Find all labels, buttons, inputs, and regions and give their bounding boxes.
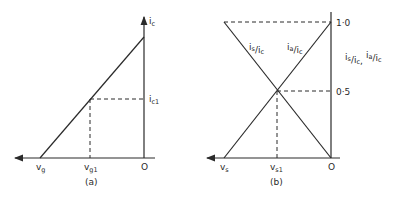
origin-label: O (141, 162, 148, 172)
caption-b: (b) (270, 177, 283, 187)
tick-0-5: 0·5 (336, 87, 350, 97)
diagram-a: ic ic1 vg vg1 O (a) (15, 16, 159, 187)
ic1-label: ic1 (149, 94, 159, 106)
origin-label: O (328, 162, 335, 172)
tick-1-0: 1·0 (336, 18, 351, 28)
ia-ic-label: ia/ic (287, 42, 303, 56)
y-axis-label: ic (149, 16, 156, 28)
y-axis-label: is/ic,ia/ic (345, 50, 382, 66)
transfer-line (40, 37, 144, 158)
vg-label: vg (36, 162, 45, 174)
is-ic-label: is/ic (249, 42, 264, 56)
vs1-label: vs1 (270, 162, 283, 174)
vs-label: vs (220, 162, 229, 174)
diagram-b: 1·0 0·5 O vs vs1 is/ic ia/ic is/ic,ia/ic… (207, 12, 382, 187)
caption-a: (a) (85, 177, 98, 187)
vg1-label: vg1 (84, 162, 98, 174)
diagram-canvas: ic ic1 vg vg1 O (a) 1·0 0·5 O vs vs1 is/… (0, 0, 395, 198)
